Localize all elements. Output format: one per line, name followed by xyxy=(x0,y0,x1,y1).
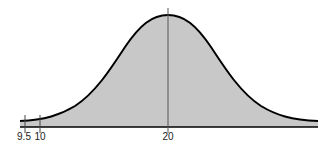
tick-label-9-5: 9.5 xyxy=(17,131,31,142)
tick-label-20: 20 xyxy=(162,131,173,142)
shaded-area xyxy=(20,15,318,127)
tick-label-10: 10 xyxy=(34,131,45,142)
normal-curve-diagram xyxy=(0,0,327,152)
